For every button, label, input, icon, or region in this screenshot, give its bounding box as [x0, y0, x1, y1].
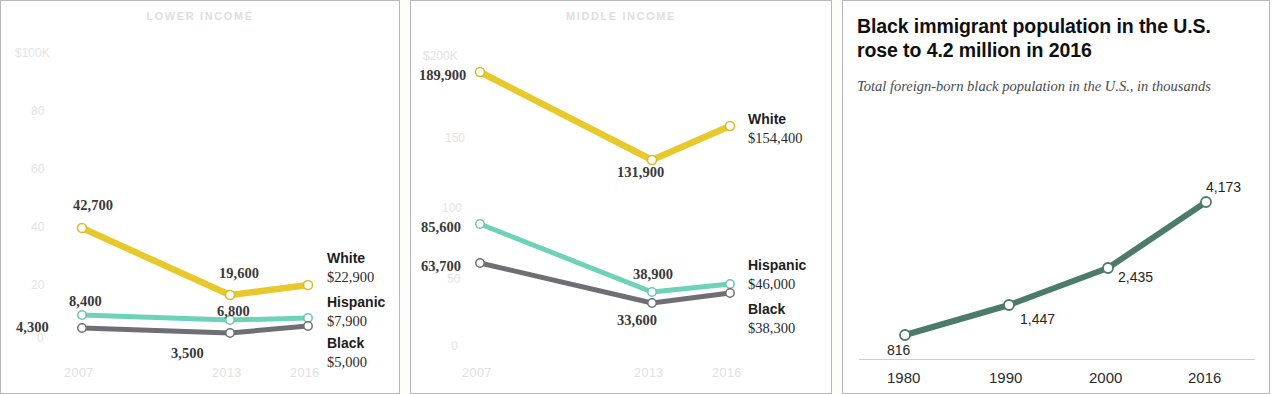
marker-white-2007 — [476, 68, 485, 77]
legend-black-name-middle: Black — [748, 301, 795, 319]
series-line-white — [82, 228, 308, 295]
panel-black-immigrant-population: Black immigrant population in the U.S. r… — [842, 0, 1270, 394]
x-tick-lower-2016: 2016 — [290, 366, 320, 380]
x-tick-middle-2016: 2016 — [712, 366, 742, 380]
marker-black-2007 — [476, 259, 484, 267]
legend-hispanic-lower: Hispanic $7,900 — [327, 294, 385, 330]
marker-black-2016 — [304, 322, 312, 330]
immigrant-population-plot — [843, 1, 1270, 394]
marker-black-2013 — [648, 299, 656, 307]
series-line-immigrant — [905, 202, 1206, 335]
value-label-white-2007: 42,700 — [73, 197, 113, 214]
series-line-black — [480, 263, 730, 303]
legend-white-name-middle: White — [748, 111, 802, 129]
x-axis-baseline — [859, 359, 1255, 360]
value-label-black-2013: 3,500 — [171, 345, 204, 362]
marker-immigrant-1990 — [1004, 300, 1014, 310]
infographic-page: LOWER INCOME $100K 80 60 40 20 0 — [0, 0, 1272, 394]
series-line-hispanic — [480, 224, 730, 292]
x-tick-middle-2007: 2007 — [462, 366, 492, 380]
legend-white-middle: White $154,400 — [748, 111, 802, 147]
x-tick-immigrant-2016: 2016 — [1188, 369, 1221, 386]
marker-hispanic-2007 — [476, 220, 484, 228]
marker-white-2016 — [304, 281, 313, 290]
panel-lower-income: LOWER INCOME $100K 80 60 40 20 0 — [0, 0, 400, 394]
panel-middle-income: MIDDLE INCOME $200K 150 100 50 0 189,900… — [410, 0, 832, 394]
legend-hispanic-middle: Hispanic $46,000 — [748, 257, 806, 293]
value-label-hispanic-2013: 6,800 — [217, 303, 250, 320]
marker-white-2016 — [726, 122, 735, 131]
marker-black-2013 — [226, 329, 234, 337]
marker-black-2007 — [78, 324, 86, 332]
series-line-hispanic — [82, 315, 308, 320]
series-line-black — [82, 326, 308, 333]
legend-black-value-middle: $38,300 — [748, 319, 795, 337]
legend-black-middle: Black $38,300 — [748, 301, 795, 337]
legend-white-name-lower: White — [327, 250, 374, 268]
value-label-white-2007: 189,900 — [419, 67, 466, 84]
legend-white-value-middle: $154,400 — [748, 129, 802, 147]
series-line-white — [480, 72, 730, 160]
legend-hispanic-name-middle: Hispanic — [748, 257, 806, 275]
value-label-hispanic-2007: 8,400 — [69, 293, 102, 310]
legend-hispanic-value-middle: $46,000 — [748, 275, 806, 293]
legend-black-name-lower: Black — [327, 335, 367, 353]
x-tick-immigrant-1980: 1980 — [887, 369, 920, 386]
value-label-hispanic-2013: 38,900 — [633, 266, 673, 283]
marker-white-2013 — [226, 291, 235, 300]
marker-immigrant-2000 — [1103, 263, 1113, 273]
x-tick-immigrant-2000: 2000 — [1089, 369, 1122, 386]
marker-white-2007 — [78, 224, 87, 233]
legend-white-lower: White $22,900 — [327, 250, 374, 286]
legend-hispanic-name-lower: Hispanic — [327, 294, 385, 312]
x-tick-middle-2013: 2013 — [634, 366, 664, 380]
marker-hispanic-2007 — [78, 311, 86, 319]
legend-hispanic-value-lower: $7,900 — [327, 312, 385, 330]
value-label-immigrant-1980: 816 — [887, 342, 910, 358]
legend-black-value-lower: $5,000 — [327, 353, 367, 371]
value-label-immigrant-2000: 2,435 — [1118, 269, 1153, 285]
x-tick-immigrant-1990: 1990 — [989, 369, 1022, 386]
marker-immigrant-2016 — [1201, 197, 1211, 207]
marker-immigrant-1980 — [900, 330, 910, 340]
value-label-black-2013: 33,600 — [617, 312, 657, 329]
marker-hispanic-2013 — [648, 288, 656, 296]
legend-white-value-lower: $22,900 — [327, 268, 374, 286]
marker-hispanic-2016 — [726, 280, 734, 288]
x-tick-lower-2013: 2013 — [212, 366, 242, 380]
marker-black-2016 — [726, 289, 734, 297]
legend-black-lower: Black $5,000 — [327, 335, 367, 371]
marker-hispanic-2016 — [304, 314, 312, 322]
value-label-black-2007: 63,700 — [421, 258, 461, 275]
value-label-hispanic-2007: 85,600 — [421, 219, 461, 236]
value-label-immigrant-1990: 1,447 — [1020, 311, 1055, 327]
value-label-white-2013: 131,900 — [617, 164, 664, 181]
x-tick-lower-2007: 2007 — [64, 366, 94, 380]
value-label-white-2013: 19,600 — [219, 265, 259, 282]
value-label-immigrant-2016: 4,173 — [1206, 179, 1241, 195]
value-label-black-2007: 4,300 — [16, 319, 49, 336]
